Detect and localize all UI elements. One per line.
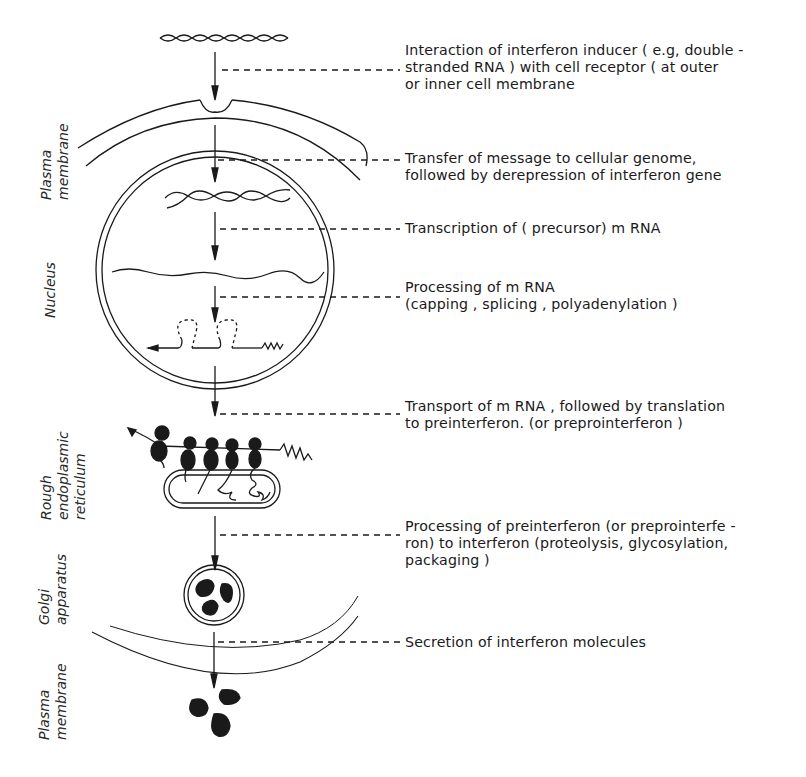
- label-line: Nucleus: [42, 262, 59, 318]
- interferon-gene-icon: [165, 190, 290, 208]
- step-line: Processing of m RNA: [405, 279, 678, 296]
- arrow-down-icon: [212, 286, 218, 322]
- step-7-text: Secretion of interferon molecules: [405, 634, 646, 651]
- step-6-text: Processing of preinterferon (or preproin…: [405, 518, 736, 569]
- golgi-vesicle-icon: [184, 565, 244, 625]
- plasma-membrane-top-icon: [78, 100, 367, 180]
- arrow-down-icon: [212, 516, 218, 570]
- label-line: Plasma: [36, 663, 53, 740]
- label-golgi: Golgi apparatus: [36, 554, 70, 625]
- label-nucleus: Nucleus: [42, 262, 59, 318]
- ds-rna-inducer-icon: [160, 35, 288, 41]
- label-rough-er: Rough endoplasmic reticulum: [38, 431, 89, 520]
- label-line: reticulum: [72, 431, 89, 520]
- er-cisterna-icon: [164, 470, 280, 508]
- label-line: Plasma: [38, 123, 55, 200]
- step-2-text: Transfer of message to cellular genome, …: [405, 150, 722, 184]
- processed-mrna-icon: [148, 320, 283, 351]
- arrow-down-icon: [212, 52, 218, 100]
- step-line: Transcription of ( precursor) m RNA: [405, 220, 661, 237]
- step-line: stranded RNA ) with cell receptor ( at o…: [405, 59, 744, 76]
- step-5-text: Transport of m RNA , followed by transla…: [405, 398, 725, 432]
- interferon-pathway-diagram: [0, 0, 806, 777]
- label-line: apparatus: [53, 554, 70, 625]
- step-line: followed by derepression of interferon g…: [405, 167, 722, 184]
- label-plasma-membrane-top: Plasma membrane: [38, 123, 72, 200]
- step-3-text: Transcription of ( precursor) m RNA: [405, 220, 661, 237]
- arrow-down-icon: [211, 632, 217, 688]
- step-4-text: Processing of m RNA (capping , splicing …: [405, 279, 678, 313]
- step-line: packaging ): [405, 552, 736, 569]
- label-plasma-membrane-bottom: Plasma membrane: [36, 663, 70, 740]
- label-line: membrane: [53, 663, 70, 740]
- plasma-membrane-bottom-icon: [92, 596, 358, 674]
- label-line: endoplasmic: [55, 431, 72, 520]
- step-line: (capping , splicing , polyadenylation ): [405, 296, 678, 313]
- precursor-mrna-icon: [112, 269, 324, 283]
- arrow-down-icon: [212, 212, 218, 260]
- label-line: Rough: [38, 431, 55, 520]
- step-line: Transfer of message to cellular genome,: [405, 150, 722, 167]
- step-line: Interaction of interferon inducer ( e.g,…: [405, 42, 744, 59]
- polysome-icon: [128, 426, 312, 500]
- nucleus-envelope-icon: [96, 151, 334, 389]
- step-line: Processing of preinterferon (or preproin…: [405, 518, 736, 535]
- step-1-text: Interaction of interferon inducer ( e.g,…: [405, 42, 744, 93]
- step-line: or inner cell membrane: [405, 76, 744, 93]
- secreted-interferon-icon: [190, 690, 240, 737]
- step-line: to preinterferon. (or preprointerferon ): [405, 415, 725, 432]
- label-line: membrane: [55, 123, 72, 200]
- arrow-down-icon: [212, 366, 218, 416]
- label-line: Golgi: [36, 554, 53, 625]
- step-line: ron) to interferon (proteolysis, glycosy…: [405, 535, 736, 552]
- arrow-down-icon: [212, 125, 218, 182]
- step-line: Secretion of interferon molecules: [405, 634, 646, 651]
- step-line: Transport of m RNA , followed by transla…: [405, 398, 725, 415]
